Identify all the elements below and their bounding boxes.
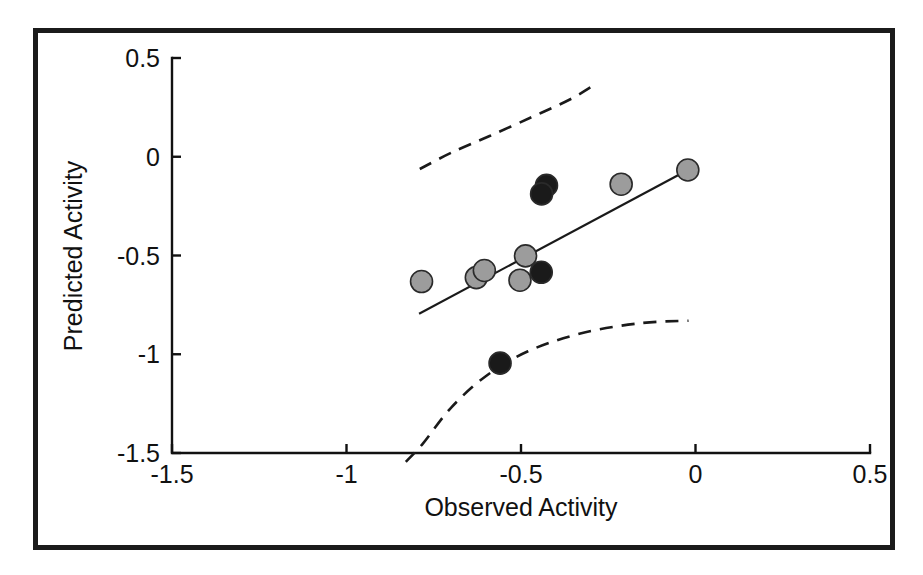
y-tick-label: 0 bbox=[146, 143, 160, 171]
data-point-test-set bbox=[530, 261, 552, 283]
data-point-training-set bbox=[509, 269, 531, 291]
data-points-group bbox=[411, 159, 699, 374]
lower-confidence-curve bbox=[406, 321, 689, 462]
y-tick-label: -0.5 bbox=[117, 242, 160, 270]
y-tick-label: 0.5 bbox=[125, 44, 160, 72]
y-axis-title: Predicted Activity bbox=[59, 160, 87, 351]
y-tick-label: -1.5 bbox=[117, 439, 160, 467]
upper-confidence-curve bbox=[420, 86, 593, 169]
data-point-training-set bbox=[515, 245, 537, 267]
data-point-training-set bbox=[677, 159, 699, 181]
data-point-training-set bbox=[610, 173, 632, 195]
x-tick-label: -1 bbox=[335, 460, 357, 488]
data-point-test-set bbox=[489, 352, 511, 374]
data-point-test-set bbox=[531, 183, 553, 205]
data-point-training-set bbox=[411, 271, 433, 293]
figure-root: -1.5-1-0.500.50.50-0.5-1-1.5Observed Act… bbox=[0, 0, 923, 575]
x-axis-title: Observed Activity bbox=[424, 493, 618, 521]
x-tick-label: 0 bbox=[689, 460, 703, 488]
y-tick-label: -1 bbox=[138, 340, 160, 368]
scatter-plot: -1.5-1-0.500.50.50-0.5-1-1.5Observed Act… bbox=[0, 0, 923, 575]
x-tick-label: -0.5 bbox=[499, 460, 542, 488]
data-point-training-set bbox=[473, 260, 495, 282]
x-tick-label: 0.5 bbox=[853, 460, 888, 488]
